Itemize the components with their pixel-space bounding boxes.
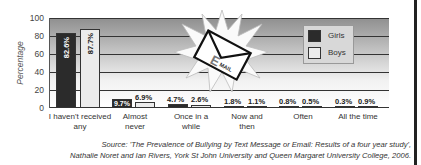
bar-boys-3 xyxy=(247,106,267,108)
x-category-4: Often xyxy=(280,112,326,122)
value-label: 1.1% xyxy=(248,97,265,106)
bar-boys-0: 87.7% xyxy=(80,29,100,108)
value-label: 0.8% xyxy=(279,97,296,106)
legend-swatch-girls xyxy=(308,30,321,42)
y-tick-60: 60 xyxy=(28,49,44,59)
bar-girls-1: 9.7% xyxy=(112,99,132,108)
legend-label-boys: Boys xyxy=(328,48,346,57)
value-label: 0.9% xyxy=(358,97,375,106)
bar-boys-4 xyxy=(302,106,322,108)
x-category-2: Once in awhile xyxy=(166,112,216,132)
bar-girls-0: 82.6% xyxy=(56,33,76,108)
page-border xyxy=(414,0,417,165)
bar-boys-5 xyxy=(358,106,378,108)
legend: Girls Boys xyxy=(303,25,354,64)
bar-girls-5 xyxy=(335,106,355,108)
x-category-0: I haven't receivedany xyxy=(45,112,115,132)
value-label: 6.9% xyxy=(135,93,152,102)
bar-girls-3 xyxy=(224,106,244,108)
y-tick-100: 100 xyxy=(28,13,44,23)
source-line-2: Nathalie Noret and Ian Rivers, York St J… xyxy=(70,151,411,160)
bar-boys-1 xyxy=(135,102,155,108)
bar-boys-2 xyxy=(191,105,211,108)
legend-swatch-boys xyxy=(308,47,321,59)
y-tick-80: 80 xyxy=(28,31,44,41)
legend-label-girls: Girls xyxy=(328,31,344,40)
email-envelope-icon: E MAIL xyxy=(170,8,270,98)
y-tick-0: 0 xyxy=(28,103,44,113)
y-tick-40: 40 xyxy=(28,67,44,77)
x-category-5: All the time xyxy=(330,112,386,122)
value-label: 0.5% xyxy=(302,97,319,106)
source-line-1: Source: 'The Prevalence of Bullying by T… xyxy=(102,140,411,149)
bar-girls-2 xyxy=(168,104,188,108)
x-category-3: Now andthen xyxy=(224,112,270,132)
x-category-1: Almostnever xyxy=(113,112,157,132)
value-label: 1.8% xyxy=(224,97,241,106)
y-tick-20: 20 xyxy=(28,85,44,95)
y-axis-label: Percentage xyxy=(15,33,25,93)
value-label: 0.3% xyxy=(335,97,352,106)
bar-girls-4 xyxy=(279,106,299,108)
